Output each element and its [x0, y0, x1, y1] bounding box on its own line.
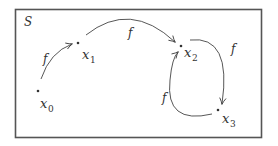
node-x0: x 0	[37, 90, 54, 114]
edge-x1-x2-label: f	[127, 26, 135, 40]
node-x0-subscript: 0	[48, 104, 54, 114]
edge-x0-x1-label: f	[42, 52, 50, 66]
node-x2-label: x	[184, 45, 192, 60]
point-x1	[77, 42, 80, 45]
node-x3: x 3	[217, 109, 236, 129]
node-x3-subscript: 3	[230, 119, 236, 129]
node-x2: x 2	[180, 45, 198, 63]
edge-x3-x2	[170, 52, 212, 116]
node-x2-subscript: 2	[192, 53, 198, 63]
orbit-diagram: S x 0 x 1 x 2 x 3 f f f f	[0, 0, 278, 146]
set-label: S	[24, 15, 32, 29]
node-x3-label: x	[222, 111, 230, 126]
node-x1: x 1	[77, 42, 96, 65]
node-x1-subscript: 1	[90, 55, 96, 65]
point-x2	[180, 45, 183, 48]
node-x1-label: x	[82, 47, 90, 62]
point-x0	[37, 90, 40, 93]
edge-x2-x3-label: f	[230, 42, 238, 56]
edge-x2-x3	[190, 40, 224, 104]
edge-x3-x2-label: f	[161, 91, 169, 105]
point-x3	[217, 109, 220, 112]
node-x0-label: x	[40, 96, 48, 111]
